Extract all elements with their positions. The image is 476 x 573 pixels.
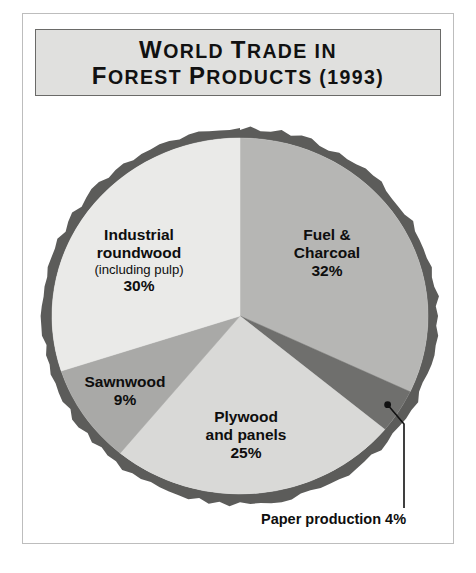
title-text-rade-in: RADE IN: [247, 40, 337, 62]
slice-label-plywood-and-panels: Plywood and panels 25%: [176, 408, 316, 462]
slice-label-fuel-line2: Charcoal: [294, 244, 360, 261]
title-text-roducts-1993: RODUCTS (1993): [206, 66, 384, 88]
slice-label-sawnwood: Sawnwood 9%: [66, 373, 184, 409]
title-cap-t: T: [231, 36, 247, 63]
page-title-line-2: FOREST PRODUCTS (1993): [92, 63, 384, 89]
slice-label-industrial-line1: Industrial: [104, 226, 174, 243]
chart-figure: WORLD TRADE IN FOREST PRODUCTS (1993) In…: [0, 0, 476, 573]
slice-label-plywood-line2: and panels: [206, 426, 287, 443]
title-cap-p: P: [189, 62, 206, 89]
slice-value-fuel: 32%: [272, 262, 382, 280]
title-text-orld: ORLD: [163, 40, 231, 62]
slice-label-industrial-roundwood: Industrial roundwood (including pulp) 30…: [60, 226, 218, 295]
slice-label-sawnwood-line1: Sawnwood: [85, 373, 166, 390]
slice-label-industrial-sublabel: (including pulp): [60, 262, 218, 277]
slice-label-plywood-line1: Plywood: [214, 408, 278, 425]
slice-label-industrial-line2: roundwood: [97, 244, 181, 261]
slice-label-fuel-charcoal: Fuel & Charcoal 32%: [272, 226, 382, 280]
slice-value-industrial: 30%: [60, 277, 218, 295]
title-cap-f: F: [92, 62, 108, 89]
title-text-orest: OREST: [108, 66, 189, 88]
slice-value-plywood: 25%: [176, 444, 316, 462]
slice-label-paper-production: Paper production 4%: [261, 511, 406, 527]
page-title-line-1: WORLD TRADE IN: [139, 37, 337, 63]
title-cap-w: W: [139, 36, 163, 63]
slice-label-fuel-line1: Fuel &: [303, 226, 350, 243]
slice-value-sawnwood: 9%: [66, 391, 184, 409]
chart-title-plate: WORLD TRADE IN FOREST PRODUCTS (1993): [35, 29, 441, 96]
